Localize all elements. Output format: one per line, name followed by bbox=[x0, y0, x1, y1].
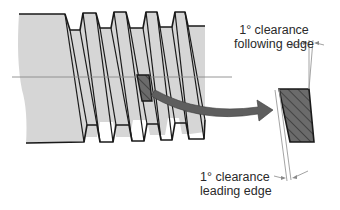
leading-clearance-line2: leading edge bbox=[200, 184, 310, 198]
leading-clearance-line1: 1° clearance bbox=[200, 170, 310, 184]
label-leading-edge-clearance: 1° clearance leading edge bbox=[200, 170, 310, 198]
label-following-edge-clearance: 1° clearance following edge bbox=[222, 23, 326, 51]
enlarged-tool bbox=[275, 40, 314, 181]
threaded-workpiece bbox=[18, 12, 205, 144]
following-clearance-line2: following edge bbox=[222, 37, 326, 51]
enlarged-tool-body bbox=[279, 89, 314, 142]
following-clearance-line1: 1° clearance bbox=[222, 23, 326, 37]
